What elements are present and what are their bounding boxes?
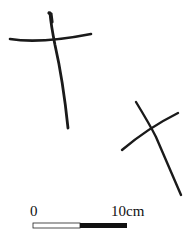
scale-label-start: 0 [30,204,38,219]
scale-bar-black-segment [80,223,127,228]
cross-object-1 [10,13,91,128]
scale-label-end: 10cm [111,204,144,219]
scale-bar [33,223,127,228]
drawing-canvas [0,0,191,238]
cross-object-2 [122,102,181,195]
scale-bar-white-segment [33,223,80,228]
